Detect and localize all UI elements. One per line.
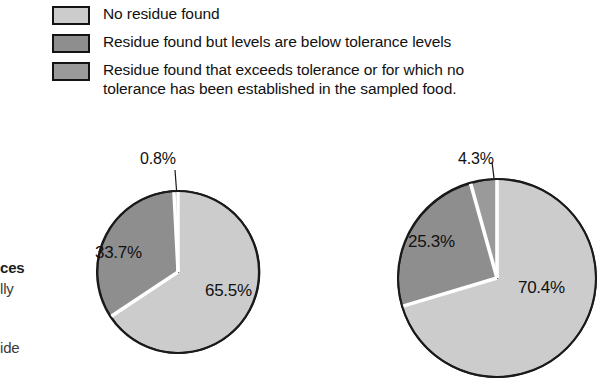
legend-label-below-tolerance: Residue found but levels are below toler… [103, 32, 451, 51]
side-caption-fragment-1: ces [0, 259, 24, 276]
pie-left-callout-label: 0.8% [140, 150, 176, 168]
legend-label-no-residue: No residue found [103, 4, 219, 23]
pie-left-label-below-tolerance: 33.7% [95, 243, 142, 263]
side-caption-fragment-3: ide [0, 339, 19, 356]
legend-label-exceeds-tolerance: Residue found that exceeds tolerance or … [103, 60, 464, 98]
pie-chart-left [78, 140, 288, 387]
pie-right-label-no-residue: 70.4% [518, 278, 565, 298]
legend-item-no-residue: No residue found [52, 4, 608, 25]
chart-page: No residue found Residue found but level… [0, 0, 612, 387]
side-caption-fragment-2: lly [0, 280, 14, 297]
pie-right-callout-label: 4.3% [458, 150, 494, 168]
pie-left-svg [78, 140, 288, 387]
legend: No residue found Residue found but level… [52, 4, 608, 98]
legend-swatch-below-tolerance [52, 34, 90, 53]
pie-left-label-no-residue: 65.5% [205, 281, 252, 301]
pie-chart-right [380, 140, 612, 387]
pie-right-label-below-tolerance: 25.3% [408, 232, 455, 252]
pie-right-svg [380, 140, 612, 387]
legend-swatch-no-residue [52, 6, 90, 25]
legend-swatch-exceeds-tolerance [52, 62, 90, 81]
legend-item-below-tolerance: Residue found but levels are below toler… [52, 32, 608, 53]
legend-item-exceeds-tolerance: Residue found that exceeds tolerance or … [52, 60, 608, 98]
